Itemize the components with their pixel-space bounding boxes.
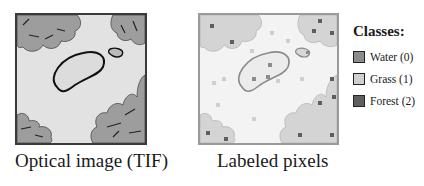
tree-cluster-icon bbox=[17, 15, 81, 51]
legend-label: Grass (1) bbox=[370, 73, 412, 85]
labeled-pixels-image bbox=[198, 13, 339, 145]
pond-icon bbox=[109, 48, 123, 57]
legend-title: Classes: bbox=[353, 24, 415, 39]
grass-swatch-icon bbox=[353, 73, 365, 85]
legend-label: Water (0) bbox=[370, 51, 413, 63]
lake-icon bbox=[239, 52, 289, 91]
forest-swatch-icon bbox=[353, 95, 365, 107]
tree-cluster-icon bbox=[111, 15, 145, 45]
lake-icon bbox=[54, 52, 104, 91]
classes-legend: Classes: Water (0) Grass (1) Forest (2) bbox=[353, 24, 415, 112]
legend-item-grass: Grass (1) bbox=[353, 68, 415, 90]
tree-cluster-icon bbox=[200, 15, 262, 51]
tree-cluster-icon bbox=[17, 113, 52, 143]
optical-image bbox=[15, 13, 147, 145]
optical-image-caption: Optical image (TIF) bbox=[15, 151, 168, 170]
tree-cluster-icon bbox=[200, 113, 235, 143]
tree-cluster-icon bbox=[298, 15, 337, 47]
tree-cluster-icon bbox=[91, 75, 145, 143]
labeled-pixels-graphic bbox=[200, 15, 337, 143]
legend-item-water: Water (0) bbox=[353, 46, 415, 68]
legend-item-forest: Forest (2) bbox=[353, 90, 415, 112]
optical-image-graphic bbox=[17, 15, 145, 143]
tree-cluster-icon bbox=[280, 75, 337, 143]
legend-label: Forest (2) bbox=[370, 95, 415, 107]
labeled-pixels-caption: Labeled pixels bbox=[217, 151, 328, 170]
water-swatch-icon bbox=[353, 51, 365, 63]
